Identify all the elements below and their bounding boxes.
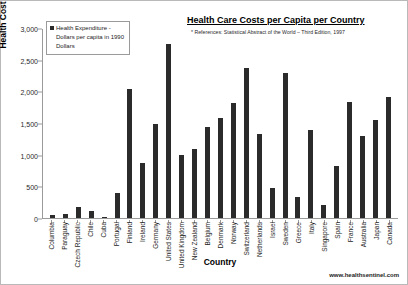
- bar[interactable]: [334, 166, 339, 218]
- footer-website: www.healthsentinel.com: [329, 272, 399, 278]
- x-axis-tick-label: Columbia: [48, 222, 55, 249]
- bar-slot: [72, 29, 85, 218]
- bar-slot: [279, 29, 292, 218]
- y-axis-ticks: 3,0002,5002,0001,5001,0005000: [1, 29, 42, 219]
- x-axis-tick-label: Norway: [230, 222, 237, 244]
- y-axis-tick-label: 500: [26, 184, 38, 191]
- bar[interactable]: [192, 149, 197, 218]
- bar-slot: [188, 29, 201, 218]
- x-axis-tick-label: Greece: [294, 222, 301, 243]
- bar-slot: [162, 29, 175, 218]
- bar-slot: [227, 29, 240, 218]
- x-axis-tick-label: Japan: [372, 222, 379, 240]
- x-axis-tick-label: Germany: [152, 222, 159, 249]
- bar[interactable]: [179, 155, 184, 218]
- bar[interactable]: [153, 124, 158, 219]
- x-axis-tick-label: Switzerland: [243, 222, 250, 256]
- bar-slot: [304, 29, 317, 218]
- x-axis-tick-label: Australia: [359, 222, 366, 247]
- bar-slot: [292, 29, 305, 218]
- bar[interactable]: [205, 127, 210, 218]
- bar[interactable]: [270, 188, 275, 218]
- bar[interactable]: [50, 215, 55, 218]
- bar-slot: [136, 29, 149, 218]
- bar-slot: [382, 29, 395, 218]
- bar-slot: [369, 29, 382, 218]
- x-axis-tick-label: Paraguay: [61, 222, 68, 250]
- chart-frame: Health Care Costs per Capita per Country…: [0, 0, 408, 285]
- y-axis-tick-label: 1,500: [20, 121, 38, 128]
- x-axis-title: Country: [42, 257, 398, 267]
- bar[interactable]: [63, 214, 68, 218]
- bar-slot: [330, 29, 343, 218]
- x-axis-tick-label: Denmark: [217, 222, 224, 248]
- x-axis-tick-label: Cuba: [100, 222, 107, 238]
- bar[interactable]: [115, 193, 120, 218]
- bar[interactable]: [308, 130, 313, 218]
- x-axis-tick-label: Sweden: [281, 222, 288, 246]
- bar-slot: [149, 29, 162, 218]
- x-axis-tick-label: New Zealand: [191, 222, 198, 260]
- x-axis-tick-label: Israel: [268, 222, 275, 238]
- bar-slot: [175, 29, 188, 218]
- bar-slot: [46, 29, 59, 218]
- bar[interactable]: [347, 102, 352, 218]
- bar-slot: [356, 29, 369, 218]
- x-axis-tick-label: Canada: [385, 222, 392, 245]
- bar[interactable]: [218, 118, 223, 218]
- bar[interactable]: [386, 97, 391, 218]
- bar[interactable]: [295, 197, 300, 218]
- bar-slot: [266, 29, 279, 218]
- bar[interactable]: [102, 217, 107, 218]
- y-axis-tick-label: 3,000: [20, 26, 38, 33]
- bar-slot: [317, 29, 330, 218]
- bar[interactable]: [166, 44, 171, 219]
- bar-slot: [343, 29, 356, 218]
- bar[interactable]: [127, 89, 132, 218]
- plot-area: [42, 29, 398, 219]
- x-axis-tick-label: Italy: [307, 222, 314, 234]
- y-axis-tick-label: 2,500: [20, 57, 38, 64]
- bar-slot: [240, 29, 253, 218]
- bar[interactable]: [89, 211, 94, 218]
- bar[interactable]: [321, 205, 326, 218]
- bar-slot: [111, 29, 124, 218]
- bar[interactable]: [360, 136, 365, 218]
- x-axis-tick-label: Chile: [87, 222, 94, 237]
- y-axis-tick-label: 2,000: [20, 89, 38, 96]
- bar-slot: [253, 29, 266, 218]
- bar-slot: [201, 29, 214, 218]
- x-axis-tick-label: Portugal: [113, 222, 120, 246]
- x-axis-tick-label: Ireland: [139, 222, 146, 242]
- bar[interactable]: [76, 207, 81, 218]
- y-axis-tick-label: 1,000: [20, 152, 38, 159]
- x-axis-tick-label: Finland: [126, 222, 133, 243]
- bar[interactable]: [244, 68, 249, 218]
- bar[interactable]: [257, 134, 262, 218]
- x-axis-tick-label: Belgium: [204, 222, 211, 245]
- bar[interactable]: [283, 73, 288, 218]
- bar-slot: [85, 29, 98, 218]
- bar-slot: [214, 29, 227, 218]
- x-axis-tick-label: United States: [165, 222, 172, 261]
- x-axis-tick-label: Singapore: [320, 222, 327, 252]
- x-axis-tick-label: France: [346, 222, 353, 242]
- bar-slot: [98, 29, 111, 218]
- chart-title: Health Care Costs per Capita per Country: [187, 15, 365, 25]
- bar-slot: [124, 29, 137, 218]
- x-axis-tick-label: Netherlands: [255, 222, 262, 257]
- bar-slot: [59, 29, 72, 218]
- bar[interactable]: [140, 163, 145, 218]
- bar-series: [43, 29, 398, 218]
- bar[interactable]: [231, 103, 236, 218]
- bar[interactable]: [373, 120, 378, 218]
- x-axis-tick-label: Spain: [333, 222, 340, 239]
